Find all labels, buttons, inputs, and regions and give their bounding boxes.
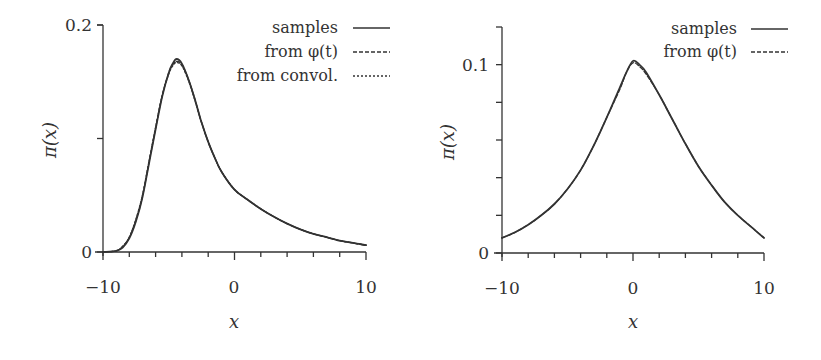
right-ytick-top: 0.1	[462, 55, 489, 75]
right-axes	[494, 27, 764, 261]
left-xtick-mid: 0	[229, 277, 240, 297]
figure: 0.2 0 −10 0 10 x π(x) samples from φ(t) …	[0, 0, 821, 360]
left-ytick-zero: 0	[81, 242, 92, 262]
left-curves	[103, 59, 366, 252]
right-curves	[502, 61, 764, 238]
right-panel: 0.1 0 −10 0 10 x π(x) samples from φ(t)	[437, 19, 788, 332]
left-panel: 0.2 0 −10 0 10 x π(x) samples from φ(t) …	[39, 15, 390, 332]
right-x-axis-label: x	[628, 311, 638, 332]
left-legend: samples from φ(t) from convol.	[237, 18, 390, 85]
right-xtick-left: −10	[484, 278, 520, 298]
left-xtick-left: −10	[85, 277, 121, 297]
right-xtick-right: 10	[753, 278, 775, 298]
left-xtick-right: 10	[355, 277, 377, 297]
right-ytick-zero: 0	[478, 243, 489, 263]
series-from-t	[103, 61, 366, 252]
left-legend-phi: from φ(t)	[264, 42, 338, 61]
left-x-axis-label: x	[229, 311, 239, 332]
right-legend: samples from φ(t)	[663, 19, 788, 61]
left-ytick-top: 0.2	[65, 15, 92, 35]
right-xtick-mid: 0	[628, 278, 639, 298]
left-legend-convol: from convol.	[237, 66, 338, 85]
right-y-axis-label: π(x)	[437, 124, 458, 161]
series-samples	[103, 59, 366, 252]
series-samples	[502, 61, 764, 238]
right-legend-phi: from φ(t)	[663, 42, 737, 61]
left-legend-samples: samples	[272, 18, 338, 37]
left-y-axis-label: π(x)	[39, 122, 60, 159]
right-legend-samples: samples	[671, 19, 737, 38]
series-from-convol	[103, 63, 366, 253]
series-from-t	[502, 63, 764, 238]
